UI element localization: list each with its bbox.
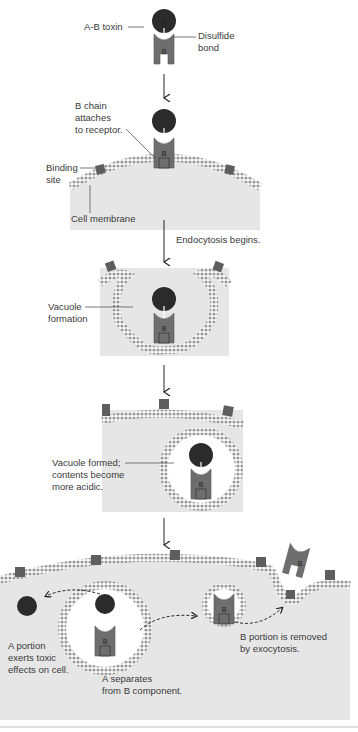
svg-text:B: B — [162, 150, 167, 157]
label-endocytosis-begins: Endocytosis begins. — [176, 234, 261, 246]
label-vacuole-formation: Vacuole formation — [48, 301, 88, 325]
step1-toxin: B A — [128, 9, 196, 98]
svg-text:B: B — [199, 481, 204, 488]
step3-vacuole-formation: B — [85, 261, 229, 392]
label-disulfide-bond: Disulfide bond — [198, 30, 234, 54]
svg-text:B: B — [162, 48, 167, 55]
svg-text:A: A — [162, 18, 167, 25]
svg-text:B: B — [298, 560, 303, 567]
svg-text:B: B — [162, 325, 167, 332]
svg-text:B: B — [103, 638, 108, 645]
label-ab-toxin: A-B toxin — [84, 21, 123, 33]
label-vacuole-formed: Vacuole formed; contents become more aci… — [52, 457, 124, 493]
svg-text:B: B — [222, 606, 227, 613]
label-b-portion-removed: B portion is removed by exocytosis. — [240, 631, 327, 655]
label-a-portion-effects: A portion exerts toxic effects on cell. — [8, 640, 69, 676]
label-cell-membrane: Cell membrane — [71, 213, 135, 225]
label-binding-site: Binding site — [46, 162, 78, 186]
label-b-chain-attaches: B chain attaches to receptor. — [75, 100, 123, 136]
ab-toxin-diagram: B A B B — [0, 0, 358, 732]
label-a-separates: A separates from B component. — [102, 673, 182, 697]
